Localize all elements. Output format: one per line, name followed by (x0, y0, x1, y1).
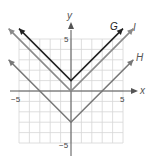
y-axis-label: y (66, 10, 73, 21)
x-axis-label: x (139, 85, 146, 96)
x-axis-arrow-icon (131, 88, 138, 94)
y-axis-arrow-icon (68, 22, 74, 29)
x-tick-neg5: −5 (11, 95, 21, 104)
label-I: I (133, 22, 136, 33)
x-tick-5: 5 (120, 95, 125, 104)
y-tick-neg5: −5 (59, 141, 69, 150)
graph: x y −5 5 5 −5 G I H (0, 0, 151, 162)
label-G: G (110, 21, 118, 32)
label-H: H (136, 52, 144, 63)
y-tick-5: 5 (64, 35, 69, 44)
